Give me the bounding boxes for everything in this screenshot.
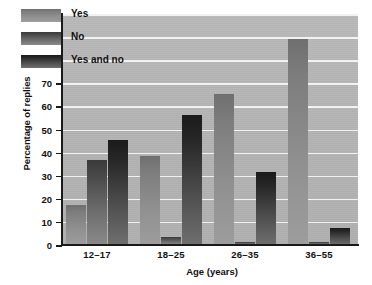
gridline [62,153,358,155]
legend-swatch-no [21,32,61,45]
bar-12-17-yes [66,205,87,245]
plot-area [62,14,358,245]
x-axis-line [61,244,359,246]
y-tick-mark [56,176,62,178]
y-tick-label: 20 [24,193,52,204]
legend-label-no: No [71,31,84,42]
y-tick-mark [56,199,62,201]
gridline [62,106,358,108]
legend-swatch-yes-and-no [21,55,61,68]
x-axis-title: Age (years) [62,266,362,277]
gridline [62,37,358,39]
y-tick-mark [56,130,62,132]
bar-18-25-yesno [182,115,203,246]
x-tick-label: 18–25 [141,249,201,260]
bar-36-55-yes [288,39,309,245]
x-tick-label: 26–35 [215,249,275,260]
y-tick-label: 60 [24,101,52,112]
bar-26-35-yesno [256,172,277,245]
legend-label-yes-and-no: Yes and no [71,54,124,65]
legend-swatch-yes [21,9,61,22]
bar-36-55-yesno [330,228,351,245]
y-tick-mark [56,222,62,224]
gridline [62,130,358,132]
y-tick-mark [56,106,62,108]
y-tick-label: 40 [24,147,52,158]
y-tick-mark [56,83,62,85]
y-tick-mark [56,245,62,247]
bar-12-17-yesno [108,140,129,245]
bar-chart: Percentage of replies 010203040506070809… [0,0,372,285]
bar-12-17-no [87,160,108,245]
gridline [62,14,358,16]
y-tick-label: 10 [24,216,52,227]
y-tick-label: 50 [24,124,52,135]
bar-26-35-yes [214,94,235,245]
y-tick-label: 70 [24,78,52,89]
y-tick-mark [56,153,62,155]
y-tick-label: 0 [24,240,52,251]
bar-18-25-yes [140,156,161,245]
y-tick-label: 30 [24,170,52,181]
x-tick-label: 12–17 [67,249,127,260]
gridline [62,83,358,85]
legend-label-yes: Yes [71,8,88,19]
x-tick-label: 36–55 [289,249,349,260]
